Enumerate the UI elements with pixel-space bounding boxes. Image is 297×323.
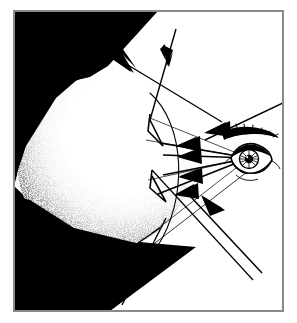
figure-canvas [0, 0, 297, 323]
optics-figure: Reflection of light from an illuminated … [0, 0, 297, 323]
eye-apex-point [248, 157, 250, 159]
